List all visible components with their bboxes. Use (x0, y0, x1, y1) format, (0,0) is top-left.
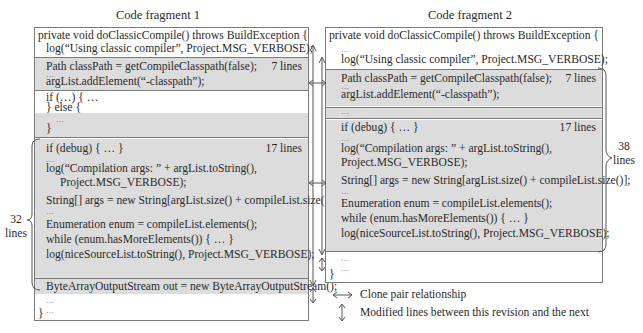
legend-clone-pair: Clone pair relationship (360, 288, 466, 301)
clone-pair-arrow-icon (309, 180, 326, 186)
connector-overlay (0, 0, 643, 333)
fragment1-brace-icon (27, 139, 40, 290)
fragment2-brace-icon (598, 68, 612, 252)
clone-pair-arrow-icon (309, 80, 326, 86)
modified-lines-icon (319, 258, 325, 271)
legend-modified-lines: Modified lines between this revision and… (360, 306, 589, 319)
modified-lines-icon (310, 288, 316, 303)
legend-modified-icon (339, 304, 345, 321)
legend-clone-pair-icon (333, 292, 352, 298)
